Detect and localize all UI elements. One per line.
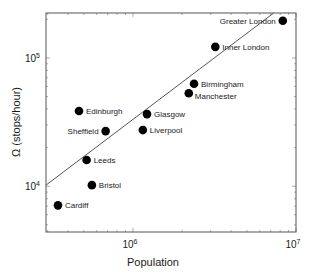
data-point [190, 79, 199, 88]
point-label: Greater London [220, 17, 276, 26]
tick-labels: 106107104105 [25, 52, 301, 250]
fit-line-group [46, 13, 274, 185]
data-point [139, 126, 148, 135]
y-tick-label-exponent: 5 [36, 52, 40, 59]
point-label: Inner London [222, 43, 269, 52]
point-label: Leeds [94, 156, 116, 165]
data-point [101, 127, 110, 136]
x-tick-label-base: 10 [122, 239, 134, 250]
scatter-chart: Greater LondonInner LondonBirminghamManc… [0, 0, 315, 274]
y-tick-label: 104 [25, 180, 40, 192]
x-tick-label-exponent: 7 [297, 238, 301, 245]
data-point [75, 107, 84, 116]
x-axis-label: Population [127, 256, 179, 268]
data-point [184, 89, 193, 98]
y-tick-label-base: 10 [25, 53, 37, 64]
y-tick-label-exponent: 4 [36, 180, 40, 187]
data-point [88, 181, 97, 190]
point-labels: Greater LondonInner LondonBirminghamManc… [65, 17, 276, 211]
x-tick-label: 107 [285, 238, 300, 250]
point-label: Sheffield [68, 127, 99, 136]
data-point [279, 16, 288, 25]
point-label: Liverpool [150, 126, 183, 135]
x-tick-label-base: 10 [285, 239, 297, 250]
y-tick-label: 105 [25, 52, 40, 64]
point-label: Cardiff [65, 201, 89, 210]
data-point [82, 156, 91, 165]
point-label: Manchester [195, 92, 237, 101]
point-label: Glasgow [154, 110, 185, 119]
point-label: Bristol [99, 181, 121, 190]
point-label: Birmingham [201, 80, 244, 89]
data-point [211, 43, 220, 52]
point-label: Edinburgh [86, 107, 122, 116]
x-tick-label-exponent: 6 [134, 238, 138, 245]
data-point [143, 110, 152, 119]
data-point [54, 201, 63, 210]
y-axis-label: Ω (stops/hour) [10, 87, 22, 157]
fit-line [46, 13, 274, 185]
y-tick-label-base: 10 [25, 181, 37, 192]
x-tick-label: 106 [122, 238, 137, 250]
